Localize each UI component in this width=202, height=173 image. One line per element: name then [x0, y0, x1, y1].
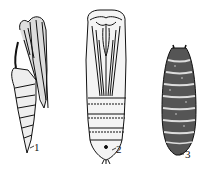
specimen-2-obtect-pupa [86, 10, 126, 164]
label-3: 3 [185, 149, 191, 160]
label-1: 1 [34, 142, 40, 153]
specimen-3-coarctate-pupa [162, 45, 196, 155]
specimen-1-exarate-pupa [12, 17, 48, 153]
pupae-diagram [0, 0, 202, 173]
label-2: 2 [116, 144, 122, 155]
